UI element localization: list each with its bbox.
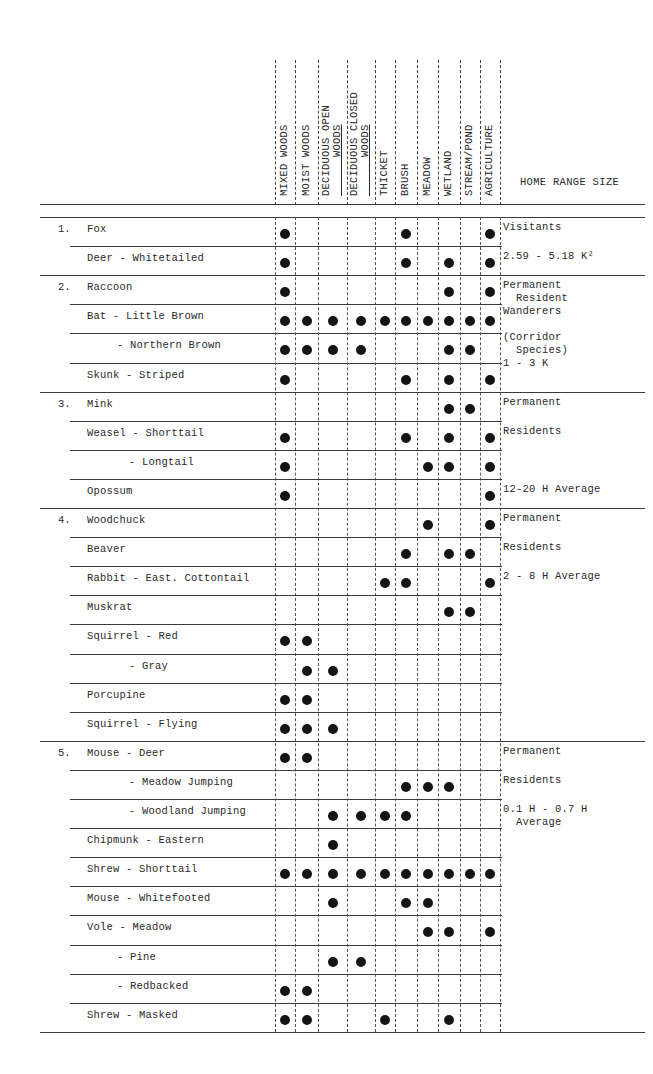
habitat-dot — [485, 375, 495, 385]
habitat-dot — [485, 258, 495, 268]
home-range-text: PermanentResidents12-20 H Average — [503, 396, 601, 496]
species-name: Skunk - Striped — [87, 369, 185, 381]
home-range-line: 1 - 3 K — [503, 357, 568, 370]
species-name: - Gray — [129, 660, 168, 672]
habitat-dot — [328, 811, 338, 821]
habitat-dot — [444, 927, 454, 937]
species-name: Woodchuck — [87, 514, 146, 526]
habitat-dot — [401, 549, 411, 559]
row-rule — [70, 974, 502, 975]
habitat-dot — [280, 229, 290, 239]
group-rule — [40, 741, 645, 742]
species-name: Raccoon — [87, 281, 133, 293]
habitat-dot — [302, 345, 312, 355]
habitat-dot — [380, 1015, 390, 1025]
group-rule — [40, 275, 645, 276]
habitat-dot — [485, 869, 495, 879]
species-name: Rabbit - East. Cottontail — [87, 572, 250, 584]
habitat-dot — [423, 869, 433, 879]
habitat-dot — [356, 811, 366, 821]
row-rule — [70, 450, 502, 451]
home-range-line: Residents — [503, 425, 601, 438]
habitat-dot — [302, 1015, 312, 1025]
habitat-dot — [485, 433, 495, 443]
species-name: - Pine — [117, 951, 156, 963]
habitat-dot — [444, 345, 454, 355]
home-range-line: 12-20 H Average — [503, 483, 601, 496]
row-rule — [70, 654, 502, 655]
group-number: 4. — [58, 514, 71, 526]
habitat-dot — [328, 840, 338, 850]
habitat-dot — [485, 578, 495, 588]
species-name: Beaver — [87, 543, 126, 555]
home-range-line: Visitants — [503, 221, 594, 234]
habitat-dot — [280, 1015, 290, 1025]
habitat-dot — [302, 753, 312, 763]
habitat-dot — [401, 898, 411, 908]
header-column-divider — [480, 60, 481, 205]
habitat-dot — [423, 898, 433, 908]
row-rule — [70, 333, 502, 334]
home-range-text: Visitants2.59 - 5.18 K² — [503, 221, 594, 263]
row-rule — [70, 857, 502, 858]
habitat-dot — [302, 666, 312, 676]
habitat-dot — [280, 986, 290, 996]
habitat-dot — [280, 258, 290, 268]
habitat-dot — [444, 404, 454, 414]
habitat-dot — [380, 578, 390, 588]
habitat-dot — [280, 724, 290, 734]
habitat-dot — [485, 229, 495, 239]
habitat-dot — [280, 636, 290, 646]
species-name: Squirrel - Red — [87, 630, 178, 642]
species-name: Muskrat — [87, 601, 133, 613]
habitat-dot — [444, 549, 454, 559]
habitat-dot — [280, 869, 290, 879]
habitat-dot — [328, 316, 338, 326]
home-range-header: HOME RANGE SIZE — [520, 176, 619, 188]
row-rule — [70, 479, 502, 480]
home-range-line: Permanent — [503, 279, 568, 292]
habitat-dot — [444, 287, 454, 297]
species-name: Chipmunk - Eastern — [87, 834, 204, 846]
habitat-dot — [280, 345, 290, 355]
species-name: - Meadow Jumping — [129, 776, 233, 788]
group-rule — [40, 1032, 645, 1033]
habitat-dot — [280, 316, 290, 326]
habitat-dot — [401, 869, 411, 879]
habitat-dot — [423, 462, 433, 472]
habitat-dot — [423, 316, 433, 326]
habitat-dot — [485, 927, 495, 937]
habitat-dot — [302, 986, 312, 996]
habitat-dot — [401, 578, 411, 588]
habitat-dot — [444, 869, 454, 879]
column-header-thicket: THICKET — [379, 150, 390, 196]
column-header-wetland: WETLAND — [443, 150, 454, 196]
header-rule — [40, 204, 645, 205]
habitat-dot — [328, 869, 338, 879]
home-range-line: Residents — [503, 774, 588, 787]
home-range-line: Resident — [503, 292, 568, 305]
row-rule — [70, 712, 502, 713]
species-name: Fox — [87, 223, 107, 235]
header-column-divider — [295, 60, 296, 205]
column-header-agriculture: AGRICULTURE — [484, 124, 495, 196]
habitat-dot — [280, 462, 290, 472]
habitat-dot — [465, 345, 475, 355]
row-rule — [70, 624, 502, 625]
header-rule — [40, 217, 645, 218]
column-header-stream-pond: STREAM/POND — [464, 124, 475, 196]
species-name: Squirrel - Flying — [87, 718, 198, 730]
home-range-line: (Corridor — [503, 331, 568, 344]
column-header-meadow: MEADOW — [422, 157, 433, 196]
header-column-divider — [375, 60, 376, 205]
home-range-text: Permanent ResidentWanderers (Corridor Sp… — [503, 279, 568, 370]
habitat-dot — [328, 724, 338, 734]
species-name: Porcupine — [87, 689, 146, 701]
row-rule — [70, 945, 502, 946]
species-name: Vole - Meadow — [87, 921, 172, 933]
habitat-dot — [328, 898, 338, 908]
habitat-dot — [302, 316, 312, 326]
habitat-dot — [444, 375, 454, 385]
habitat-dot — [356, 869, 366, 879]
habitat-dot — [465, 404, 475, 414]
